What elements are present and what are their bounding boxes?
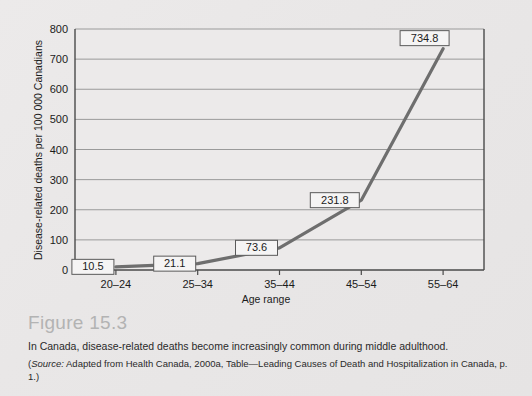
y-tick-label: 800 — [50, 23, 68, 35]
data-point-label: 231.8 — [310, 193, 359, 208]
x-tick-label: 25–34 — [182, 278, 213, 290]
x-tick-label: 35–44 — [264, 278, 295, 290]
figure-container: 0100200300400500600700800 20–2425–3435–4… — [0, 0, 532, 396]
y-tick-label: 0 — [62, 264, 68, 276]
x-tick-label: 45–54 — [346, 278, 377, 290]
data-point-label: 21.1 — [154, 256, 196, 271]
y-tick-label: 100 — [50, 234, 68, 246]
y-tick-label: 400 — [50, 144, 68, 156]
y-tick-label: 200 — [50, 204, 68, 216]
figure-number: Figure 15.3 — [28, 312, 512, 334]
y-tick-label: 600 — [50, 83, 68, 95]
label-value: 10.5 — [82, 260, 103, 272]
line-chart: 0100200300400500600700800 20–2425–3435–4… — [0, 0, 532, 312]
label-value: 73.6 — [246, 241, 267, 253]
y-axis-tick-labels: 0100200300400500600700800 — [50, 23, 68, 276]
figure-source: (Source: Adapted from Health Canada, 200… — [28, 357, 512, 383]
y-tick-label: 700 — [50, 53, 68, 65]
source-detail: Adapted from Health Canada, 2000a, Table… — [28, 358, 507, 382]
data-point-label: 73.6 — [236, 240, 278, 255]
chart-area: 0100200300400500600700800 20–2425–3435–4… — [0, 0, 532, 312]
data-point-label: 734.8 — [400, 31, 449, 46]
x-axis-title: Age range — [242, 293, 291, 305]
figure-caption: In Canada, disease-related deaths become… — [28, 339, 512, 353]
source-label: Source: — [31, 358, 64, 369]
label-value: 231.8 — [321, 194, 349, 206]
y-tick-label: 300 — [50, 174, 68, 186]
x-tick-label: 20–24 — [101, 278, 132, 290]
label-value: 21.1 — [164, 257, 185, 269]
y-tick-label: 500 — [50, 113, 68, 125]
caption-block: Figure 15.3 In Canada, disease-related d… — [28, 312, 512, 383]
x-tick-label: 55–64 — [428, 278, 459, 290]
y-axis-title: Disease-related deaths per 100 000 Canad… — [32, 40, 44, 260]
label-value: 734.8 — [411, 32, 439, 44]
x-axis-tick-labels: 20–2425–3435–4445–5455–64 — [101, 278, 459, 290]
data-point-label: 10.5 — [72, 259, 114, 274]
